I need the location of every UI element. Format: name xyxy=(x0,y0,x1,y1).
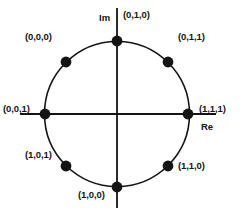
constellation-point-101 xyxy=(61,161,72,172)
constellation-point-011 xyxy=(163,57,174,68)
constellation-point-111 xyxy=(183,109,194,120)
real-axis-label: Re xyxy=(201,122,213,132)
point-label-100: (1,0,0) xyxy=(78,190,105,200)
point-label-001: (0,0,1) xyxy=(3,104,30,114)
point-label-000: (0,0,0) xyxy=(25,32,52,42)
point-label-110: (1,1,0) xyxy=(178,161,205,171)
constellation-point-110 xyxy=(163,161,174,172)
point-label-111: (1,1,1) xyxy=(199,104,226,114)
constellation-point-001 xyxy=(40,109,51,120)
point-label-101: (1,0,1) xyxy=(25,150,52,160)
constellation-point-100 xyxy=(112,182,123,193)
constellation-diagram: (0,1,0) (0,1,1) (1,1,1) (0,0,0) (0,0,1) … xyxy=(0,0,241,215)
constellation-point-000 xyxy=(61,57,72,68)
constellation-point-010 xyxy=(112,36,123,47)
point-label-011: (0,1,1) xyxy=(178,32,205,42)
point-label-010: (0,1,0) xyxy=(123,10,150,20)
imaginary-axis-label: Im xyxy=(99,13,110,23)
